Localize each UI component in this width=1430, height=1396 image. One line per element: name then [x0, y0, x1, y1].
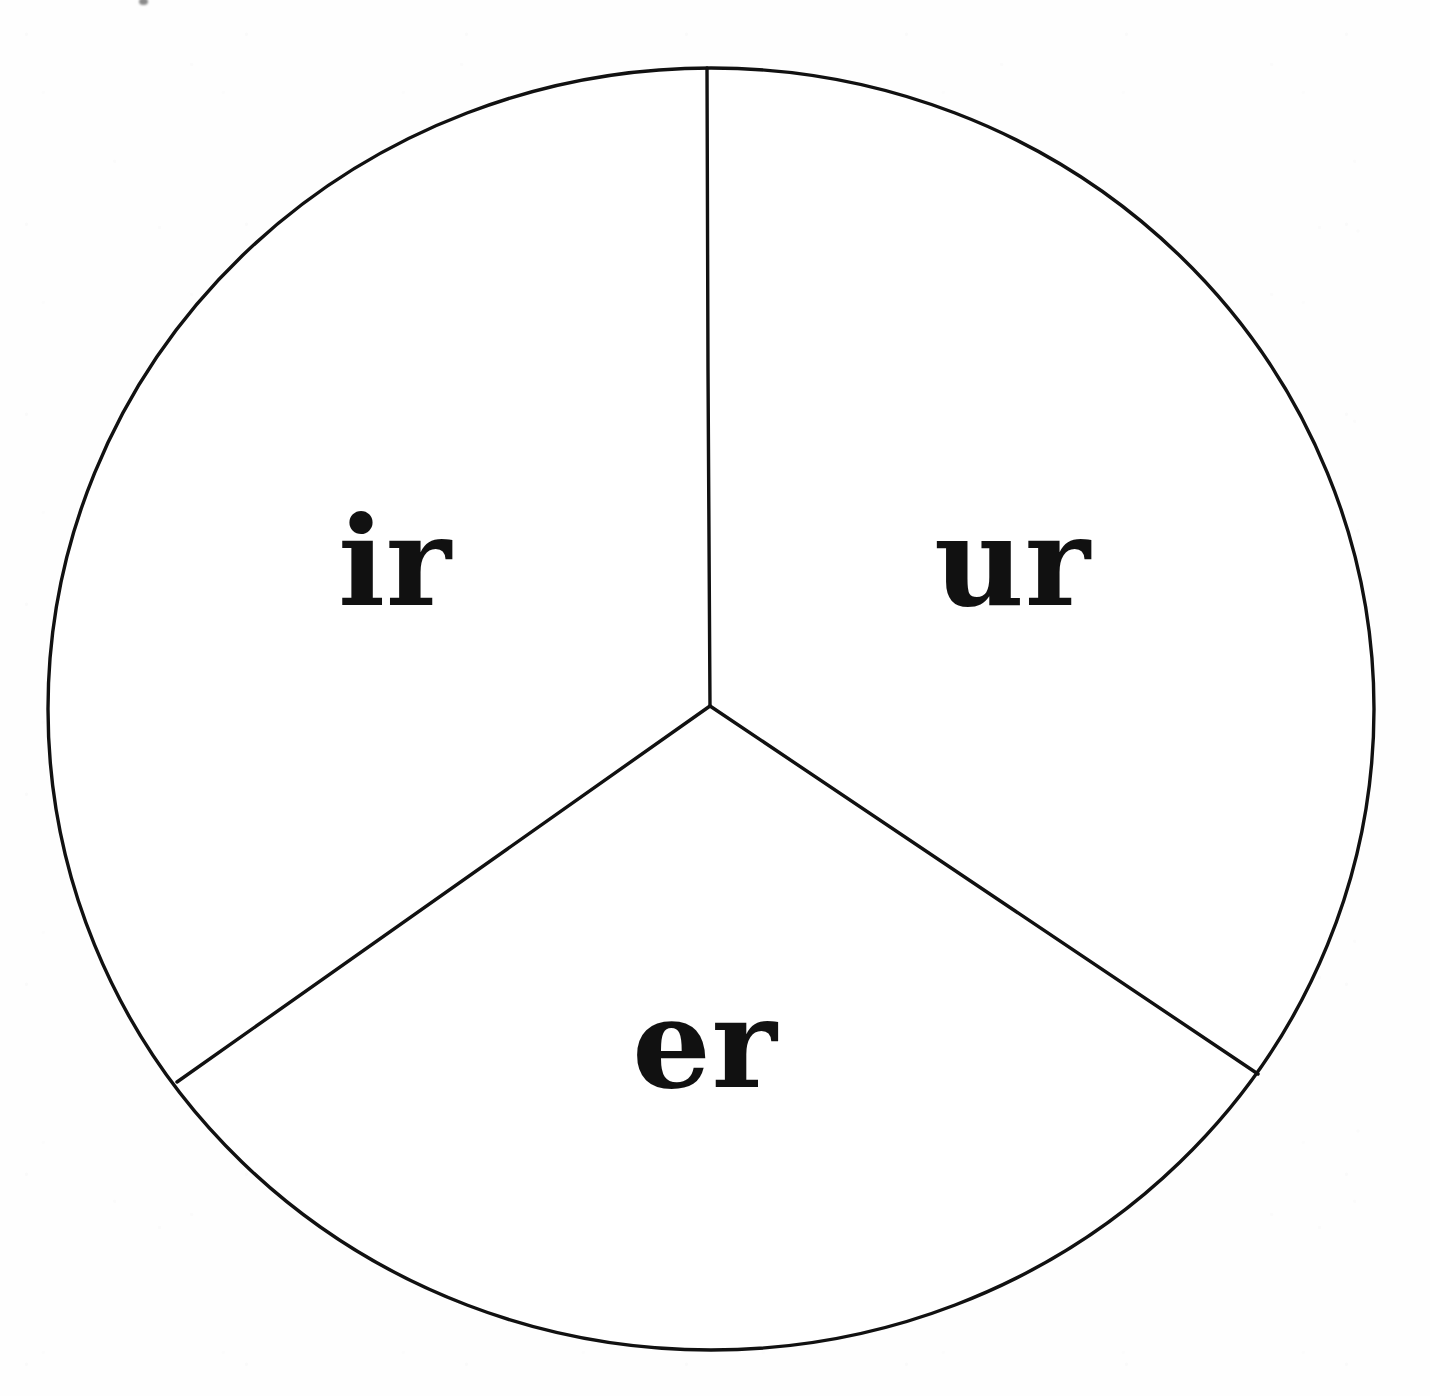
worksheet-page: ir ur er [0, 0, 1430, 1396]
spinner-wheel[interactable] [0, 0, 1430, 1396]
sector-label-er: er [632, 982, 777, 1106]
wheel-outline[interactable] [48, 68, 1374, 1350]
sector-label-ir: ir [338, 500, 452, 624]
sector-label-ur: ur [934, 500, 1091, 624]
